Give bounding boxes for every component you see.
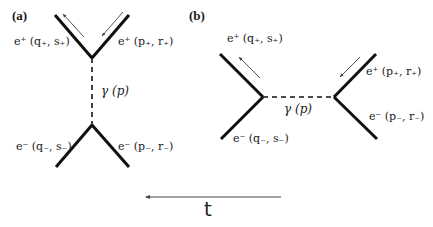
label-b-outgoing-electron: e⁻ (q₋, s₋) — [233, 133, 289, 144]
fermion-arrow-icon — [237, 71, 244, 78]
fermion-arrow-icon — [108, 143, 114, 150]
panel-b-label: (b) — [189, 9, 205, 22]
label-b-incoming-electron: e⁻ (p₋, r₋) — [369, 111, 424, 122]
label-a-photon: γ (p) — [101, 85, 129, 97]
panel-b-diagram — [220, 54, 377, 139]
feynman-diagram-figure: (a) e⁺ (q₊, s₊) e⁺ (p₊, r₊) γ (p) e⁻ (q₋… — [0, 0, 433, 227]
label-a-outgoing-positron: e⁺ (p₊, r₊) — [118, 36, 173, 47]
momentum-arrow-icon — [63, 14, 84, 37]
time-axis — [145, 195, 281, 199]
label-b-outgoing-positron: e⁺ (p₊, r₊) — [366, 66, 421, 77]
label-a-incoming-positron: e⁺ (q₊, s₊) — [14, 36, 70, 47]
arrowhead-left-icon — [145, 195, 150, 199]
time-axis-label: t — [204, 199, 212, 219]
fermion-arrow-icon — [238, 115, 245, 122]
label-b-photon: γ (p) — [284, 103, 312, 115]
label-b-incoming-positron: e⁺ (q₊, s₊) — [227, 33, 283, 44]
panel-a-label: (a) — [12, 9, 27, 22]
label-a-outgoing-electron: e⁻ (q₋, s₋) — [16, 141, 72, 152]
label-a-incoming-electron: e⁻ (p₋, r₋) — [118, 141, 173, 152]
